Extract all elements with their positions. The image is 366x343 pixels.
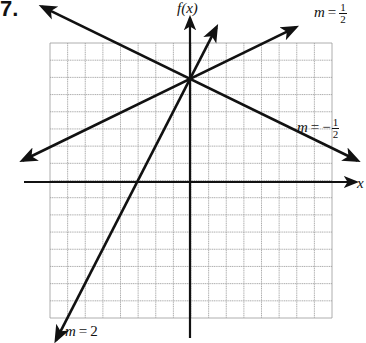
slope-symbol: m [65,323,76,339]
equals-sign: = [79,323,87,339]
graph-figure: 7. f(x) x m=12 m=−12 m=2 [0,0,366,343]
line-m-2 [56,27,216,340]
fraction: 12 [339,2,347,25]
slope-label-half: m=12 [314,2,347,25]
x-axis-label: x [357,175,364,192]
slope-value: 2 [90,323,98,339]
slope-symbol: m [314,4,325,20]
slope-label-neg-half: m=−12 [297,117,339,140]
equals-sign: = [328,4,336,20]
minus-sign: − [322,119,330,135]
denominator: 2 [332,129,340,140]
y-axis-label-text: f(x) [177,0,198,16]
slope-symbol: m [297,119,308,135]
x-axis-label-text: x [357,175,364,191]
fraction: 12 [332,117,340,140]
denominator: 2 [339,14,347,25]
coordinate-plane [0,0,366,343]
equals-sign: = [311,119,319,135]
axes [24,18,356,338]
slope-label-two: m=2 [65,323,98,340]
y-axis-label: f(x) [177,0,198,17]
